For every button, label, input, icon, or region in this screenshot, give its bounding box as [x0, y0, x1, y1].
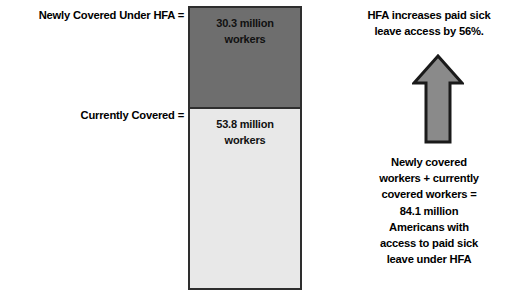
annotation-summary: Newly covered workers + currently covere… — [344, 154, 514, 268]
newly-value-line-1: 30.3 million — [190, 16, 300, 32]
current-value-line-1: 53.8 million — [190, 117, 300, 133]
headline-line-2: leave access by 56%. — [344, 24, 514, 40]
series-label-currently-covered: Currently Covered = — [0, 109, 184, 122]
newly-value-line-2: workers — [190, 32, 300, 48]
bar-segment-currently-covered-value: 53.8 million workers — [190, 117, 300, 148]
stacked-bar-chart: 30.3 million workers 53.8 million worker… — [188, 6, 302, 290]
summary-line-2: workers + currently — [344, 170, 514, 186]
series-label-newly-covered: Newly Covered Under HFA = — [0, 9, 184, 22]
annotation-column: HFA increases paid sick leave access by … — [344, 0, 514, 299]
current-value-line-2: workers — [190, 133, 300, 149]
summary-line-3: covered workers = — [344, 186, 514, 202]
arrow-up-icon — [412, 53, 464, 145]
bar-segment-newly-covered-value: 30.3 million workers — [190, 16, 300, 47]
summary-line-5: Americans with — [344, 219, 514, 235]
summary-line-4: 84.1 million — [344, 203, 514, 219]
headline-line-1: HFA increases paid sick — [344, 8, 514, 24]
infographic-canvas: Newly Covered Under HFA = Currently Cove… — [0, 0, 514, 299]
bar-segment-currently-covered: 53.8 million workers — [190, 109, 300, 288]
annotation-headline: HFA increases paid sick leave access by … — [344, 8, 514, 40]
bar-segment-newly-covered: 30.3 million workers — [190, 8, 300, 109]
summary-line-7: leave under HFA — [344, 251, 514, 267]
summary-line-1: Newly covered — [344, 154, 514, 170]
summary-line-6: access to paid sick — [344, 235, 514, 251]
